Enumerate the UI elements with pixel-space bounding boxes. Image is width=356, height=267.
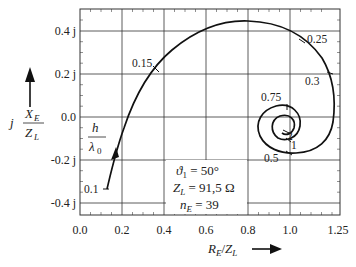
point-label-0.15: 0.15 [132, 57, 152, 69]
svg-text:0.6: 0.6 [199, 223, 214, 237]
svg-text:0.2 j: 0.2 j [55, 67, 76, 81]
impedance-chart: 0.1 0.15 0.25 0.3 0.5 0.75 1 2 h λ 0 ϑ1 … [0, 0, 356, 267]
svg-text:1.0: 1.0 [283, 223, 298, 237]
svg-text:L: L [33, 132, 39, 142]
parameter-label: h λ 0 [88, 120, 106, 156]
y-tick-labels: 0.4 j 0.2 j 0.0 -0.2 j -0.4 j [51, 24, 76, 210]
svg-text:0.8: 0.8 [241, 223, 256, 237]
x-tick-labels: 0.0 0.2 0.4 0.6 0.8 1.0 1.25 [73, 223, 349, 237]
svg-text:0.0: 0.0 [73, 223, 88, 237]
svg-text:0.0: 0.0 [61, 110, 76, 124]
point-label-0.25: 0.25 [307, 33, 327, 45]
svg-text:λ: λ [88, 139, 95, 154]
svg-text:0.4: 0.4 [157, 223, 172, 237]
svg-text:0.2: 0.2 [115, 223, 130, 237]
x-axis-label: RE/ZL [207, 241, 282, 258]
point-label-2: 2 [287, 130, 293, 142]
svg-text:0: 0 [97, 146, 102, 156]
point-label-0.5: 0.5 [264, 152, 279, 164]
svg-text:nE = 39: nE = 39 [180, 197, 219, 214]
svg-text:h: h [92, 120, 99, 135]
point-label-0.75: 0.75 [261, 91, 281, 103]
point-label-0.1: 0.1 [84, 183, 99, 195]
svg-text:RE/ZL: RE/ZL [207, 241, 237, 258]
svg-text:Z: Z [25, 125, 33, 140]
svg-text:E: E [33, 113, 40, 123]
svg-text:1.25: 1.25 [328, 223, 349, 237]
svg-text:j: j [8, 115, 14, 130]
point-label-0.3: 0.3 [305, 75, 320, 87]
svg-text:0.4 j: 0.4 j [55, 24, 76, 38]
y-axis-label: j X E Z L [8, 67, 44, 142]
svg-text:X: X [24, 106, 34, 121]
svg-text:-0.2 j: -0.2 j [51, 153, 76, 167]
svg-text:-0.4 j: -0.4 j [51, 196, 76, 210]
